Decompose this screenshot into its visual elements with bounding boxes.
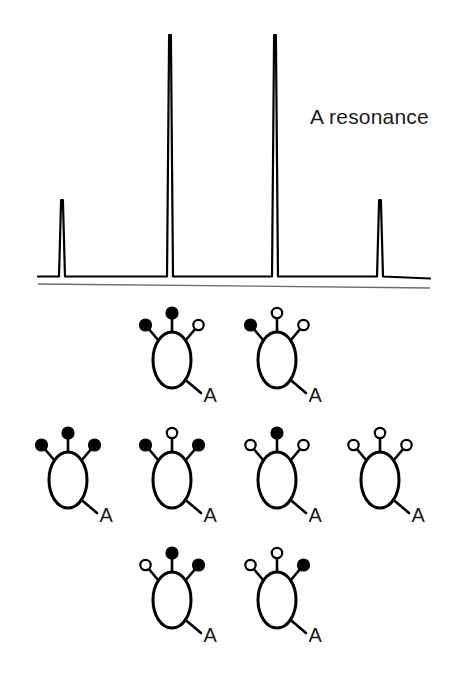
spin-state-left-alpha (36, 439, 48, 451)
nucleus-label: A (204, 504, 218, 526)
spin-diagram: A (140, 428, 218, 526)
figure-root: A resonance AAAAAAAA (0, 0, 450, 685)
spin-diagram: A (140, 547, 217, 646)
nucleus-tail (290, 380, 306, 394)
nucleus-tail (393, 500, 409, 514)
nucleus-label: A (309, 384, 323, 406)
spin-state-right-alpha (193, 559, 205, 571)
spin-state-left-beta (245, 440, 255, 450)
spin-state-left-alpha (140, 319, 152, 331)
spin-diagram: A (245, 308, 323, 406)
spin-diagram: A (36, 427, 114, 526)
nucleus-tail (81, 500, 97, 514)
spin-state-middle-alpha (62, 427, 74, 439)
spin-state-middle-beta (272, 548, 282, 558)
spin-diagram-row: AA (140, 307, 323, 406)
spin-state-middle-alpha (166, 547, 178, 559)
spin-diagram: A (245, 548, 322, 646)
spin-state-right-alpha (193, 439, 205, 451)
spin-state-left-alpha (140, 439, 152, 451)
spin-state-right-beta (193, 320, 203, 330)
nucleus-tail (290, 620, 306, 634)
spin-diagram-panel: AAAAAAAA (0, 0, 450, 685)
spin-diagram: A (245, 427, 322, 526)
spin-diagram-svg: AAAAAAAA (0, 0, 450, 685)
nucleus-label: A (309, 504, 323, 526)
spin-state-right-alpha (298, 559, 310, 571)
spin-diagram: A (140, 307, 218, 406)
nucleus-tail (185, 380, 201, 394)
nucleus-tail (290, 500, 306, 514)
spin-state-middle-alpha (166, 307, 178, 319)
nucleus-label: A (204, 384, 218, 406)
nucleus-tail (185, 500, 201, 514)
spin-state-middle-alpha (271, 427, 283, 439)
spin-state-right-alpha (89, 439, 101, 451)
spin-diagram-group: AAAAAAAA (36, 307, 426, 646)
nucleus-tail (185, 620, 201, 634)
spin-diagram: A (348, 428, 425, 526)
spin-state-middle-beta (272, 308, 282, 318)
spin-diagram-row: AAAA (36, 427, 426, 526)
spin-state-left-beta (140, 560, 150, 570)
spin-state-middle-beta (167, 428, 177, 438)
spin-state-right-beta (401, 440, 411, 450)
spin-state-left-alpha (245, 319, 257, 331)
nucleus-label: A (309, 624, 323, 646)
spin-diagram-row: AA (140, 547, 322, 646)
nucleus-label: A (412, 504, 426, 526)
spin-state-right-beta (298, 440, 308, 450)
nucleus-label: A (100, 504, 114, 526)
nucleus-label: A (204, 624, 218, 646)
spin-state-middle-beta (375, 428, 385, 438)
spin-state-left-beta (245, 560, 255, 570)
spin-state-right-beta (298, 320, 308, 330)
spin-state-left-beta (348, 440, 358, 450)
